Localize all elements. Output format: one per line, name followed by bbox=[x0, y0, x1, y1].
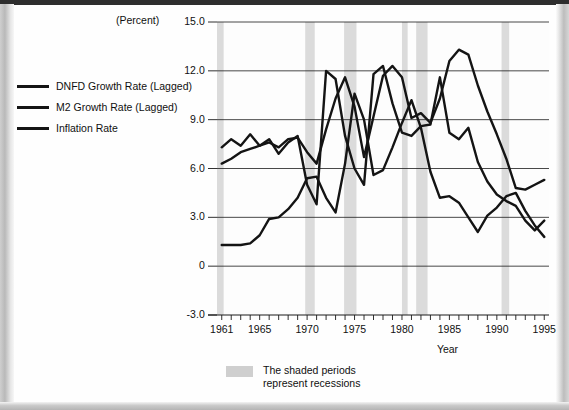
x-axis-title-row: Year bbox=[0, 343, 569, 355]
legend-item-label: Inflation Rate bbox=[56, 122, 118, 134]
y-tick-label: -3.0 bbox=[159, 308, 205, 320]
x-axis-title: Year bbox=[437, 343, 458, 355]
x-tick-label: 1985 bbox=[428, 323, 470, 335]
x-tick-label: 1975 bbox=[334, 323, 376, 335]
legend-line-swatch-icon bbox=[17, 127, 49, 130]
y-tick-label: 3.0 bbox=[159, 210, 205, 222]
chart-plot-wrapper: (Percent) 15.012.09.06.03.00-3.0 1961196… bbox=[0, 0, 569, 410]
y-tick-label: 0 bbox=[159, 259, 205, 271]
legend-item: M2 Growth Rate (Lagged) bbox=[17, 99, 187, 115]
x-tick-label: 1990 bbox=[476, 323, 518, 335]
recession-caption-text: The shaded periods represent recessions bbox=[263, 364, 360, 390]
y-tick-label: 15.0 bbox=[159, 15, 205, 27]
x-tick-label: 1961 bbox=[201, 323, 243, 335]
legend-line-swatch-icon bbox=[17, 106, 49, 109]
recession-caption: The shaded periods represent recessions bbox=[226, 364, 360, 390]
x-tick-label: 1980 bbox=[381, 323, 423, 335]
y-tick-label: 6.0 bbox=[159, 162, 205, 174]
y-tick-label: 12.0 bbox=[159, 64, 205, 76]
figure-panel: (Percent) 15.012.09.06.03.00-3.0 1961196… bbox=[0, 0, 569, 410]
legend-item-label: DNFD Growth Rate (Lagged) bbox=[56, 80, 192, 92]
x-tick-label: 1995 bbox=[523, 323, 565, 335]
recession-swatch-icon bbox=[226, 366, 253, 377]
x-tick-label: 1970 bbox=[286, 323, 328, 335]
legend-line-swatch-icon bbox=[17, 85, 49, 88]
x-tick-label: 1965 bbox=[239, 323, 281, 335]
chart-legend: DNFD Growth Rate (Lagged)M2 Growth Rate … bbox=[17, 78, 187, 141]
legend-item-label: M2 Growth Rate (Lagged) bbox=[56, 101, 177, 113]
legend-item: DNFD Growth Rate (Lagged) bbox=[17, 78, 187, 94]
legend-item: Inflation Rate bbox=[17, 120, 187, 136]
